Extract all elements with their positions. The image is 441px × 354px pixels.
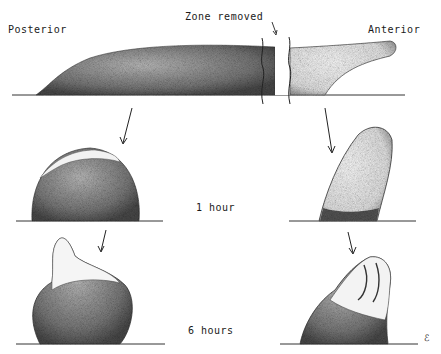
posterior-label: Posterior bbox=[8, 24, 67, 35]
arrows-to-1-hour bbox=[120, 108, 335, 153]
zone-arrow bbox=[272, 22, 276, 33]
time-label-1-hour: 1 hour bbox=[196, 202, 235, 213]
whole-slug-figure bbox=[12, 22, 405, 104]
anterior-6-hours bbox=[280, 257, 418, 344]
arrows-to-6-hours bbox=[98, 230, 356, 254]
posterior-body bbox=[36, 45, 275, 95]
anterior-label: Anterior bbox=[368, 24, 420, 35]
posterior-1-hour bbox=[16, 148, 163, 221]
anterior-body bbox=[290, 41, 396, 95]
zone-removed-label: Zone removed bbox=[185, 11, 263, 22]
posterior-6-hours bbox=[16, 238, 165, 344]
removed-zone bbox=[275, 47, 290, 95]
slug-regeneration-diagram bbox=[0, 0, 441, 354]
artist-signature: ℰ bbox=[424, 333, 430, 343]
time-label-6-hours: 6 hours bbox=[188, 325, 234, 336]
anterior-1-hour bbox=[289, 127, 416, 221]
